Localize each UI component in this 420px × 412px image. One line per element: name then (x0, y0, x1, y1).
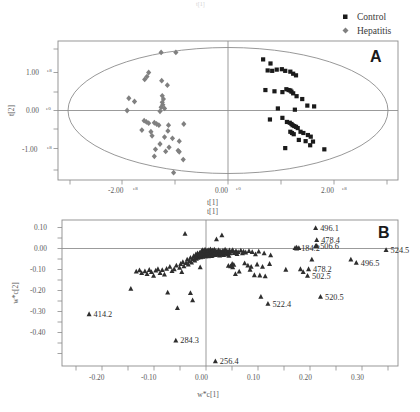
point-label-284-3: 284.3 (180, 336, 199, 345)
data-point-triangle (175, 305, 180, 310)
panel-a-xtick-2-mantissa: 2.00 (321, 186, 334, 195)
panel-b-xtick-5: 0.30 (351, 373, 364, 382)
data-point-triangle (173, 338, 178, 343)
data-point-triangle (318, 294, 323, 299)
data-point-diamond (153, 146, 158, 152)
data-point-triangle (242, 260, 247, 265)
data-point-triangle (237, 269, 242, 274)
data-point-square (297, 138, 301, 142)
panel-a-control-points (261, 57, 326, 151)
data-point-square (263, 88, 267, 92)
panel-a-ytick-2-exp: e8 (47, 145, 52, 150)
panel-b-ytick-2: -0.10 (30, 265, 46, 274)
data-point-square (283, 146, 287, 150)
data-point-square (294, 94, 298, 98)
data-point-diamond (166, 122, 171, 128)
data-point-square (322, 147, 326, 151)
top-faint-text: t[1] (196, 1, 205, 8)
figure-container: t[1] Control Hepatitis (0, 0, 420, 412)
data-point-square (296, 126, 300, 130)
data-point-square (283, 69, 287, 73)
point-label-184-2: 184.2 (301, 244, 320, 253)
data-point-triangle (283, 267, 288, 272)
point-label-256-4: 256.4 (220, 357, 240, 366)
panel-a-y-ticks (54, 49, 59, 170)
panel-a-xtick-2-exp: e8 (342, 186, 347, 191)
panel-b-ytick-3: -0.20 (30, 286, 46, 295)
data-point-triangle (188, 290, 193, 295)
legend-diamond-marker-icon (343, 28, 349, 34)
data-point-triangle (260, 264, 265, 269)
data-point-square (293, 108, 297, 112)
panel-b-ytick-4: -0.30 (30, 307, 46, 316)
data-point-triangle (256, 249, 261, 254)
point-label-520-5: 520.5 (325, 293, 344, 302)
data-point-triangle (198, 264, 203, 269)
data-point-diamond (126, 95, 131, 101)
data-point-triangle (252, 272, 257, 277)
data-point-diamond (157, 141, 162, 147)
panel-a-svg: t[1] Control Hepatitis (0, 0, 420, 206)
data-point-diamond (181, 157, 186, 163)
panel-a-hepatitis-points (125, 50, 187, 176)
panel-a-ytick-1-mantissa: 1.00 (26, 68, 39, 77)
data-point-triangle (255, 262, 260, 267)
data-point-triangle (265, 301, 270, 306)
point-label-502-5: 502.5 (312, 272, 331, 281)
data-point-diamond (159, 50, 164, 56)
data-point-square (280, 90, 284, 94)
data-point-square (261, 57, 265, 61)
panel-a-x-ticks (70, 180, 387, 185)
data-point-square (300, 97, 304, 101)
data-point-diamond (139, 127, 144, 133)
point-label-522-4: 522.4 (272, 300, 292, 309)
data-point-diamond (125, 108, 130, 114)
panel-b-xtick-0: -0.20 (89, 373, 105, 382)
data-point-triangle (354, 260, 359, 265)
data-point-diamond (163, 148, 168, 154)
legend-label-hepatitis: Hepatitis (357, 26, 392, 36)
data-point-diamond (162, 134, 167, 140)
legend: Control Hepatitis (343, 12, 392, 36)
point-label-506-6: 506.6 (320, 242, 339, 251)
data-point-triangle (183, 231, 188, 236)
data-point-triangle (162, 272, 167, 277)
data-point-square (308, 143, 312, 147)
panel-a-x-tick-label-pos2: 2.00 e8 (321, 186, 347, 195)
data-point-triangle (305, 273, 310, 278)
data-point-triangle (298, 266, 303, 271)
data-point-triangle (314, 237, 319, 242)
panel-a-letter: A (370, 48, 382, 65)
data-point-diamond (166, 144, 171, 150)
panel-b-xtick-2: 0.00 (195, 373, 208, 382)
panel-a-y-tick-label-neg1: -1.00 e8 (22, 145, 52, 154)
data-point-triangle (263, 274, 268, 279)
data-point-triangle (179, 269, 184, 274)
data-point-triangle (268, 252, 273, 257)
data-point-diamond (170, 135, 175, 141)
panel-b-xtick-3: 0.10 (247, 373, 260, 382)
panel-b-plot-frame (62, 220, 398, 366)
data-point-triangle (190, 297, 195, 302)
data-point-square (268, 61, 272, 65)
data-point-triangle (214, 236, 219, 241)
data-point-square (275, 68, 279, 72)
data-point-triangle (267, 261, 272, 266)
point-label-414-2: 414.2 (94, 310, 113, 319)
data-point-diamond (165, 82, 170, 88)
data-point-triangle (306, 266, 311, 271)
panel-a-xtick-0-mantissa: -2.00 (108, 186, 124, 195)
panel-a-scores-plot: t[1] Control Hepatitis (0, 0, 420, 206)
data-point-square (311, 139, 315, 143)
panel-b-ytick-1: 0.00 (34, 244, 47, 253)
panel-b-ytick-0: 0.10 (34, 223, 47, 232)
data-point-diamond (177, 138, 182, 144)
point-label-524-5: 524.5 (391, 246, 410, 255)
panel-b-ytick-5: -0.40 (30, 328, 46, 337)
legend-square-marker-icon (343, 15, 348, 20)
panel-a-y-tick-label-pos1: 1.00 e8 (26, 68, 52, 77)
panel-a-x-tick-label-neg2: -2.00 e8 (108, 186, 138, 195)
panel-a-y-axis-title: t[2] (7, 105, 16, 116)
panel-a-x-axis-title: t[1] (207, 198, 218, 206)
panel-a-xtick-0-exp: e8 (133, 186, 138, 191)
